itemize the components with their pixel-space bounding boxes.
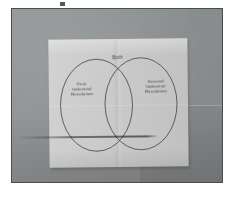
venn-label-right: Second Industrial Revolution <box>135 78 177 95</box>
paper-sheet: First Industrial Revolution Second Indus… <box>48 38 188 167</box>
photo-frame: First Industrial Revolution Second Indus… <box>11 8 223 183</box>
venn-label-left: First Industrial Revolution <box>62 81 102 98</box>
top-edge-mark <box>60 2 65 6</box>
